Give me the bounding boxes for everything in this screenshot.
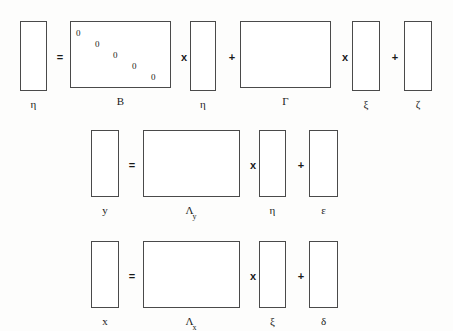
term-label-subscript: x [192, 323, 196, 331]
term-label-symbol: x [102, 315, 108, 327]
matrix-box-Λx [143, 241, 240, 308]
term-label-x: x [91, 316, 119, 327]
operator-plus: + [295, 271, 307, 282]
term-label-Λx: Λx [143, 316, 240, 330]
operator-times: x [247, 271, 259, 282]
vector-box-ξ [259, 241, 286, 308]
vector-box-δ [309, 241, 338, 308]
term-label-symbol: δ [321, 315, 326, 327]
vector-box-x [91, 241, 119, 308]
equation-row-measurement-x: x=Λxxξ+δ [0, 0, 453, 331]
term-label-symbol: ξ [270, 315, 275, 327]
diagram-canvas: η=00000Bxη+Γxξ+ζy=Λyxη+εx=Λxxξ+δ [0, 0, 453, 331]
operator-equals: = [126, 271, 138, 282]
term-label-δ: δ [309, 316, 338, 327]
term-label-ξ: ξ [259, 316, 286, 327]
